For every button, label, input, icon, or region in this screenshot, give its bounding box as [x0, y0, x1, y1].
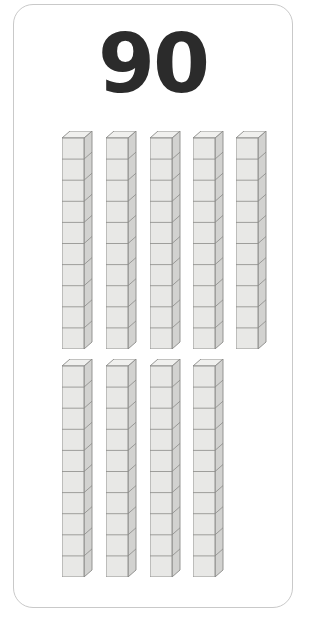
rod-row-top [14, 131, 292, 351]
base-ten-rod [193, 359, 224, 577]
number-label: 90 [14, 23, 292, 105]
flashcard: 90 [13, 4, 293, 608]
rod-row-bottom [14, 359, 292, 579]
base-ten-rod [236, 131, 267, 349]
base-ten-rod [150, 131, 181, 349]
base-ten-rod [106, 359, 137, 577]
base-ten-rod [150, 359, 181, 577]
base-ten-blocks-area [14, 131, 292, 607]
base-ten-rod [106, 131, 137, 349]
base-ten-rod [62, 131, 93, 349]
base-ten-rod [62, 359, 93, 577]
base-ten-rod [193, 131, 224, 349]
